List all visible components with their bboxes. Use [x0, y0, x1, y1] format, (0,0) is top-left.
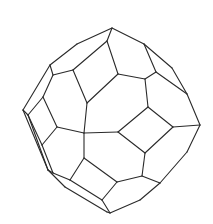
polyhedron-edge	[142, 176, 160, 183]
polyhedron-edge	[156, 72, 187, 94]
polyhedron-drawing	[0, 0, 213, 224]
polyhedron-edge	[145, 72, 156, 79]
polyhedron-figure	[0, 0, 213, 224]
polyhedron-edge	[84, 132, 118, 133]
polyhedron-edge	[28, 97, 43, 115]
polyhedron-edge	[110, 200, 140, 213]
polyhedron-edge	[50, 65, 53, 75]
polyhedron-edge	[57, 127, 84, 133]
polyhedron-edge	[118, 107, 148, 132]
polyhedron-edge	[118, 74, 145, 79]
polyhedron-edge	[84, 103, 87, 133]
polyhedron-edge	[148, 107, 173, 127]
polyhedron-edge	[73, 41, 107, 70]
polyhedron-edge	[73, 70, 87, 103]
polyhedron-edge	[140, 183, 160, 200]
polyhedron-edge	[144, 44, 156, 72]
polyhedron-edge	[70, 180, 102, 200]
polyhedron-edge	[145, 127, 173, 153]
polyhedron-edge	[142, 153, 145, 176]
polyhedron-edge	[144, 44, 172, 68]
polyhedron-edge	[53, 70, 73, 75]
polyhedron-edge	[117, 176, 142, 182]
polyhedron-edge	[43, 97, 57, 127]
polyhedron-edge	[102, 182, 117, 200]
polyhedron-edge	[145, 79, 148, 107]
polyhedron-edge	[50, 44, 77, 65]
polyhedron-edge	[84, 158, 117, 182]
polyhedron-edge	[48, 170, 65, 187]
polyhedron-edge	[112, 28, 144, 44]
polyhedron-edge	[172, 68, 187, 94]
polyhedron-edge	[42, 127, 57, 145]
polyhedron-edge	[28, 115, 42, 145]
polyhedron-edge	[87, 74, 118, 103]
polyhedron-edge	[118, 132, 145, 153]
polyhedron-edge	[160, 152, 187, 183]
polyhedron-edge	[107, 41, 118, 74]
polyhedron-edge	[23, 110, 48, 170]
polyhedron-edge	[53, 173, 70, 180]
polyhedron-edge	[70, 158, 84, 180]
polyhedron-edge	[43, 75, 53, 97]
polyhedron-edge	[173, 125, 200, 127]
polyhedron-edge	[187, 125, 200, 152]
polyhedron-edge	[187, 94, 200, 125]
